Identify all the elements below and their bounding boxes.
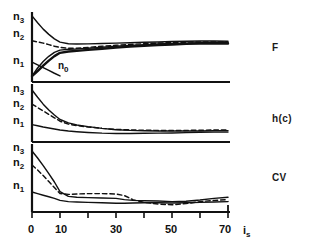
panel-label-cv: CV [272, 172, 287, 183]
panel-label-hc: h(c) [272, 113, 292, 124]
y-tick-label-p2-n1: n1 [13, 180, 24, 194]
y-tick-label-p0-n2: n2 [13, 28, 24, 42]
x-tick-label-30: 30 [110, 224, 122, 235]
y-tick-label-p2-n2: n2 [13, 157, 24, 171]
x-axis-name: is [243, 224, 251, 239]
y-tick-label-p0-n3: n3 [13, 11, 24, 25]
x-tick-label-0: 0 [28, 224, 34, 235]
chart-canvas [0, 0, 312, 249]
x-tick-label-10: 10 [55, 224, 67, 235]
y-tick-label-p1-n1: n1 [13, 115, 24, 129]
y-tick-label-p1-n2: n2 [13, 98, 24, 112]
y-tick-label-p0-n1: n1 [13, 55, 24, 69]
x-tick-label-70: 70 [219, 224, 231, 235]
panel-label-f: F [272, 42, 279, 53]
y-tick-label-p2-n3: n3 [13, 142, 24, 156]
annotation-n0: n0 [58, 60, 69, 74]
x-tick-label-50: 50 [165, 224, 177, 235]
y-tick-label-p1-n3: n3 [13, 83, 24, 97]
figure-root: F h(c) CV n3 n2 n1 n3 n2 n1 n3 n2 n1 n0 … [0, 0, 312, 249]
